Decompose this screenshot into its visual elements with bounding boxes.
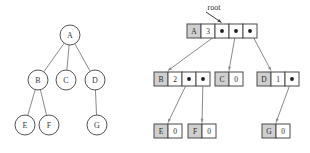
tree-node-label: B: [35, 76, 40, 85]
tree-node-label: G: [94, 121, 100, 130]
pointer-dot-icon: [201, 77, 205, 81]
tree-edge-d-g: [95, 90, 96, 115]
pointer-dot-icon: [220, 29, 224, 33]
figure-tree-and-linked-representation: ABCDEFG A3B2C0D1E0F0G0 root: [0, 0, 310, 153]
node-count-label: 0: [173, 127, 177, 136]
node-count-label: 1: [276, 75, 280, 84]
tree-node-b: B: [28, 70, 48, 90]
pointer-dot-icon: [290, 77, 294, 81]
tree-edge-b-e: [28, 90, 35, 116]
node-key-label: A: [191, 27, 197, 36]
tree-node-c: C: [56, 70, 76, 90]
node-key-label: C: [219, 75, 224, 84]
tree-node-label: C: [63, 76, 68, 85]
tree-node-g: G: [87, 115, 107, 135]
pointer-dot-icon: [248, 29, 252, 33]
node-key-label: E: [159, 127, 164, 136]
pointer-dot-icon: [187, 77, 191, 81]
tree-node-d: D: [85, 70, 105, 90]
node-key-label: G: [266, 127, 272, 136]
tree-node-label: A: [67, 31, 73, 40]
tree-node-label: E: [23, 121, 28, 130]
node-key-label: F: [193, 127, 197, 136]
tree-node-e: E: [15, 115, 35, 135]
node-count-label: 0: [234, 75, 238, 84]
tree-node-label: F: [47, 121, 52, 130]
linked-node-f: F0: [188, 124, 216, 138]
linked-node-d: D1: [257, 72, 299, 86]
tree-edge-a-b: [44, 43, 64, 72]
node-key-label: D: [261, 75, 267, 84]
tree-node-label: D: [92, 76, 98, 85]
tree-edge-a-c: [67, 45, 69, 70]
root-label: root: [208, 3, 222, 12]
linked-node-a: A3: [187, 24, 257, 38]
root-pointer-group: root: [206, 3, 222, 23]
node-count-label: 3: [206, 27, 210, 36]
linked-node-b: B2: [154, 72, 210, 86]
tree-edge-a-d: [75, 44, 90, 72]
linked-node-g: G0: [262, 124, 290, 138]
linked-node-c: C0: [215, 72, 243, 86]
tree-node-a: A: [60, 25, 80, 45]
node-count-label: 2: [173, 75, 177, 84]
node-count-label: 0: [281, 127, 285, 136]
tree-node-f: F: [39, 115, 59, 135]
tree-node-group: ABCDEFG: [15, 25, 107, 135]
node-key-label: B: [158, 75, 163, 84]
tree-edge-b-f: [40, 90, 46, 116]
node-count-label: 0: [207, 127, 211, 136]
diagram-canvas: ABCDEFG A3B2C0D1E0F0G0 root: [0, 0, 310, 153]
linked-node-e: E0: [154, 124, 182, 138]
pointer-dot-icon: [234, 29, 238, 33]
